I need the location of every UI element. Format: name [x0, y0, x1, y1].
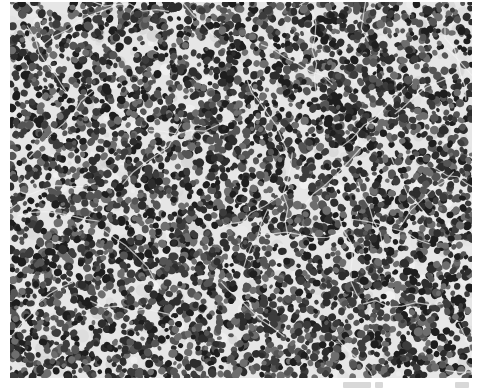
caption-text-faint	[343, 382, 371, 388]
caption-text-faint	[375, 382, 383, 388]
caption-text-faint	[455, 382, 469, 388]
micrograph-image	[10, 2, 472, 378]
